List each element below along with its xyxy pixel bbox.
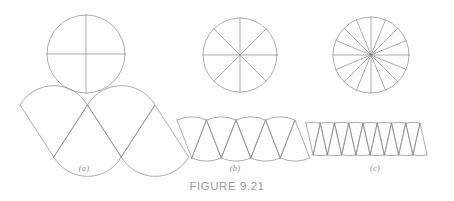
- panel-label-b: (b): [215, 163, 255, 173]
- sector-piece-a-0: [20, 86, 88, 157]
- sector-piece-c-8: [363, 122, 377, 155]
- figure-caption: FIGURE 9.21: [0, 180, 454, 192]
- sector-piece-b-5: [251, 120, 281, 161]
- sector-piece-c-2: [320, 122, 334, 155]
- sector-piece-c-11: [384, 123, 398, 156]
- sector-piece-a-2: [88, 86, 156, 157]
- panel-label-c: (c): [355, 163, 395, 173]
- sector-piece-c-3: [327, 123, 341, 156]
- panel-label-a: (a): [64, 163, 104, 173]
- sector-piece-c-15: [413, 123, 427, 156]
- sector-piece-c-10: [377, 122, 391, 155]
- sector-piece-c-5: [342, 123, 356, 156]
- sector-piece-c-4: [335, 122, 349, 155]
- sector-piece-c-14: [406, 122, 420, 155]
- sector-piece-c-9: [370, 123, 384, 156]
- sector-piece-b-1: [192, 120, 222, 161]
- sector-piece-b-2: [207, 117, 237, 158]
- sector-piece-b-7: [280, 120, 310, 161]
- sector-piece-b-6: [266, 117, 296, 158]
- sector-piece-a-3: [121, 105, 189, 176]
- sector-piece-b-3: [221, 120, 251, 161]
- sector-piece-c-6: [349, 122, 363, 155]
- sector-piece-c-12: [392, 122, 406, 155]
- sector-piece-c-1: [313, 123, 327, 156]
- sector-piece-c-0: [306, 122, 320, 155]
- sector-piece-b-4: [236, 117, 266, 158]
- sector-piece-b-0: [177, 117, 207, 158]
- sector-piece-c-7: [356, 123, 370, 156]
- sector-circles-group: [47, 15, 409, 93]
- figure-container: (a) (b) (c) FIGURE 9.21: [0, 0, 454, 201]
- sector-piece-c-13: [399, 123, 413, 156]
